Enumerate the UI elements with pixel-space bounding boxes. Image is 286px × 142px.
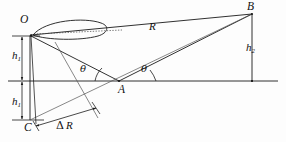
- point-label-B: B: [247, 1, 254, 13]
- label-h2-base: h: [246, 41, 252, 53]
- label-R: R: [149, 21, 156, 32]
- label-delta-R-base: R: [66, 119, 73, 131]
- label-h1-lower-base: h: [12, 95, 18, 107]
- point-A-marker: [118, 80, 120, 82]
- angle-label-theta-right: θ: [141, 64, 147, 74]
- delta-r-tick-end: [92, 102, 100, 114]
- direct-path-OB: [31, 14, 252, 35]
- angle-label-theta-left: θ: [80, 64, 86, 74]
- antenna-beam-lobe: [33, 20, 107, 39]
- theta-left-arc: [95, 68, 102, 81]
- label-h1-upper-sub: 1: [18, 55, 21, 62]
- label-h2-sub: 2: [252, 47, 255, 54]
- auxiliary-ray-O-to-C-base: [31, 36, 36, 124]
- theta-right-arc: [150, 70, 156, 81]
- delta-symbol: Δ: [56, 119, 64, 132]
- label-h2: h2: [246, 42, 255, 53]
- label-h1-lower: h1: [12, 96, 21, 107]
- point-label-O: O: [20, 14, 28, 26]
- delta-r-perpendicular-line: [55, 42, 98, 118]
- point-label-A: A: [118, 84, 125, 96]
- label-h1-upper-base: h: [12, 49, 18, 61]
- propagation-geometry-figure: O A B C R h1 h1 h2 ΔR θ θ: [0, 0, 286, 142]
- reflected-ray-AB: [119, 14, 252, 81]
- point-label-C: C: [24, 122, 32, 134]
- label-delta-R: ΔR: [56, 120, 73, 131]
- point-B-marker: [251, 13, 253, 15]
- label-h1-lower-sub: 1: [18, 101, 21, 108]
- incident-ray-OA: [31, 36, 119, 81]
- label-h1-upper: h1: [12, 50, 21, 61]
- point-O-marker: [30, 34, 32, 36]
